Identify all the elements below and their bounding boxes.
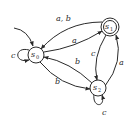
edge-label-s1-s2: c (91, 49, 96, 58)
edge-s2-s0-b (44, 57, 92, 83)
edge-label-s2-s0: b (75, 57, 80, 66)
state-subscript-s0: 0 (36, 54, 39, 60)
self-loop-s0 (18, 49, 29, 60)
state-s2: s 2 (90, 80, 106, 96)
self-loop-label-s0: c (11, 51, 16, 60)
state-s1: s 1 (101, 18, 119, 36)
start-arrow (14, 28, 33, 46)
state-subscript-s2: 2 (98, 87, 101, 93)
state-label-s0: s (31, 50, 35, 59)
edge-s0-s2-b (40, 62, 90, 89)
state-subscript-s1: 1 (110, 26, 113, 32)
edge-label-s2-s1: a (119, 58, 124, 67)
edge-s1-s2-c (96, 35, 106, 80)
state-label-s2: s (93, 83, 97, 92)
fsa-diagram: a, b a c a b b c c s 0 s 1 s 2 (0, 0, 135, 121)
state-label-s1: s (105, 22, 109, 31)
state-s0: s 0 (28, 47, 44, 63)
edge-s2-s1-a (105, 35, 118, 86)
edge-label-s0-s2: b (55, 77, 60, 86)
edge-label-s0-s1: a (72, 36, 77, 45)
edge-label-s1-s0: a, b (56, 14, 71, 23)
self-loop-label-s2: c (102, 108, 107, 117)
